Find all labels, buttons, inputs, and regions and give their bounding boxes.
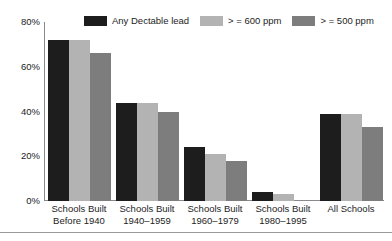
bar-series-1: [205, 154, 226, 201]
x-category-label: Schools BuiltBefore 1940: [45, 203, 113, 226]
x-category-label-line: 1980–1995: [249, 215, 317, 227]
bar-series-0: [184, 147, 205, 201]
bar-group: [45, 22, 113, 201]
bar-series-2: [158, 112, 179, 202]
x-category-label: Schools Built1980–1995: [249, 203, 317, 226]
y-tick-label: 40%: [0, 107, 40, 117]
bar-series-2: [90, 53, 111, 201]
y-tick-label: 80%: [0, 17, 40, 27]
bar-series-0: [320, 114, 341, 201]
bar-series-0: [48, 40, 69, 201]
bar-series-1: [137, 103, 158, 201]
bar-group: [181, 22, 249, 201]
bar-series-1: [273, 194, 294, 201]
x-category-label-line: Schools Built: [113, 203, 181, 215]
bottom-divider: [0, 232, 392, 233]
x-category-label-line: Schools Built: [45, 203, 113, 215]
bar-groups: [45, 22, 385, 201]
y-tick-label: 20%: [0, 151, 40, 161]
x-axis-category-labels: Schools BuiltBefore 1940Schools Built194…: [45, 203, 385, 226]
bar-series-1: [69, 40, 90, 201]
bar-chart: Any Dectable lead > = 600 ppm > = 500 pp…: [0, 0, 392, 241]
x-category-label-line: 1960–1979: [181, 215, 249, 227]
bar-series-2: [362, 127, 383, 201]
bar-group: [113, 22, 181, 201]
bar-group: [317, 22, 385, 201]
x-category-label: Schools Built1960–1979: [181, 203, 249, 226]
x-category-label-line: All Schools: [317, 203, 385, 215]
x-category-label: All Schools: [317, 203, 385, 226]
x-category-label-line: Schools Built: [249, 203, 317, 215]
y-tick-label: 60%: [0, 62, 40, 72]
y-tick-label: 0%: [0, 196, 40, 206]
bar-series-2: [226, 161, 247, 201]
bar-series-1: [341, 114, 362, 201]
x-category-label-line: 1940–1959: [113, 215, 181, 227]
bar-series-0: [116, 103, 137, 201]
bar-series-0: [252, 192, 273, 201]
x-category-label-line: Before 1940: [45, 215, 113, 227]
x-category-label-line: Schools Built: [181, 203, 249, 215]
bar-group: [249, 22, 317, 201]
x-category-label: Schools Built1940–1959: [113, 203, 181, 226]
